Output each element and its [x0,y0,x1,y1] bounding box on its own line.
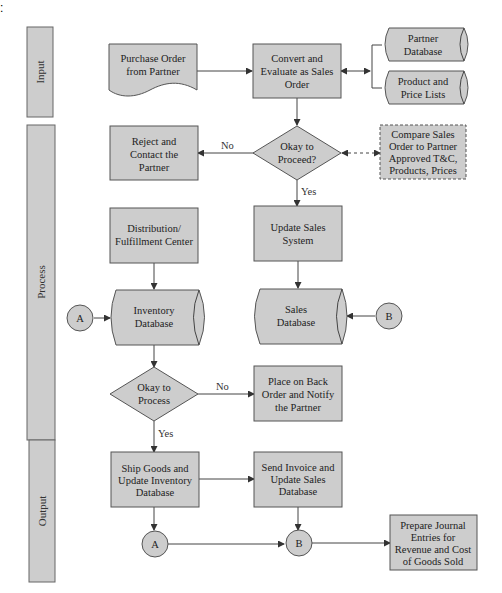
svg-text:Order: Order [285,79,310,90]
svg-text:Order and Notify: Order and Notify [262,389,335,400]
node-compare-sales-order: Compare Sales Order to Partner Approved … [380,125,466,179]
svg-text:Products, Prices: Products, Prices [389,165,457,176]
svg-text:Contact the: Contact the [130,149,178,160]
svg-text:Proceed?: Proceed? [278,154,317,165]
figure-marker: : [0,1,3,15]
svg-text:A: A [76,313,84,324]
svg-text:from Partner: from Partner [126,66,180,77]
lane-label-output: Output [36,496,48,527]
node-okay-to-process: Okay to Process [110,367,198,421]
node-journal-entries: Prepare Journal Entries for Revenue and … [390,515,477,570]
lane-input: Input [27,27,53,117]
node-purchase-order: Purchase Order from Partner [109,44,197,96]
edge-label-process-no: No [216,381,229,392]
svg-text:Product and: Product and [398,76,449,87]
svg-text:Database: Database [136,487,175,498]
node-product-price-lists: Product and Price Lists [385,71,468,104]
node-okay-to-proceed: Okay to Proceed? [253,126,341,180]
svg-text:Database: Database [404,46,443,57]
svg-text:Sales: Sales [285,304,307,315]
svg-text:Revenue and Cost: Revenue and Cost [395,544,471,555]
svg-text:Prepare Journal: Prepare Journal [400,520,466,531]
svg-text:Reject and: Reject and [132,136,177,147]
svg-text:Process: Process [138,395,170,406]
svg-text:A: A [151,539,159,550]
lane-label-process: Process [35,265,47,299]
connector-b-inbound: B [376,303,402,329]
svg-text:Update Sales: Update Sales [270,474,325,485]
lane-label-input: Input [34,60,46,83]
svg-text:Database: Database [279,486,318,497]
svg-text:Partner: Partner [139,162,170,173]
lane-process: Process [27,125,55,440]
node-back-order: Place on Back Order and Notify the Partn… [254,366,342,421]
node-reject-contact: Reject and Contact the Partner [110,126,198,180]
svg-text:Place on Back: Place on Back [268,376,329,387]
connector-a-inbound: A [67,305,93,331]
edge-label-process-yes: Yes [158,428,173,439]
svg-text:Okay to: Okay to [280,141,314,152]
svg-text:Entries for: Entries for [411,532,456,543]
edge-label-proceed-yes: Yes [301,186,316,197]
connector-a-outbound: A [142,531,168,557]
svg-text:Approved T&C,: Approved T&C, [389,153,458,164]
svg-text:Partner: Partner [408,33,439,44]
node-distribution-center: Distribution/ Fulfillment Center [110,208,198,263]
svg-text:Okay to: Okay to [137,382,171,393]
svg-text:System: System [283,235,314,246]
svg-text:Update Sales: Update Sales [270,222,325,233]
database-bracket [372,45,382,88]
node-convert-evaluate: Convert and Evaluate as Sales Order [253,44,341,98]
svg-text:Fulfillment Center: Fulfillment Center [115,236,193,247]
svg-text:Evaluate as Sales: Evaluate as Sales [261,66,334,77]
svg-text:Distribution/: Distribution/ [127,223,181,234]
svg-text:Database: Database [135,318,174,329]
lane-output: Output [29,440,55,582]
node-sales-database: Sales Database [255,289,348,344]
svg-text:Purchase Order: Purchase Order [120,53,186,64]
svg-text:B: B [385,311,392,322]
edge-label-proceed-no: No [221,140,234,151]
svg-text:Database: Database [277,317,316,328]
svg-text:Send Invoice and: Send Invoice and [262,462,336,473]
flowchart: : Input Process Output [0,0,502,593]
svg-text:the Partner: the Partner [275,402,321,413]
svg-text:Order to Partner: Order to Partner [389,141,458,152]
svg-text:Update Inventory: Update Inventory [118,475,193,486]
svg-text:Ship Goods and: Ship Goods and [121,463,189,474]
svg-text:B: B [295,538,302,549]
node-send-invoice: Send Invoice and Update Sales Database [254,452,342,507]
svg-text:of Goods Sold: of Goods Sold [403,556,464,567]
svg-text:Compare Sales: Compare Sales [391,129,454,140]
node-partner-database: Partner Database [385,28,468,61]
node-update-sales-system: Update Sales System [254,206,342,261]
svg-text:Price Lists: Price Lists [401,89,446,100]
svg-text:Inventory: Inventory [134,305,176,316]
node-inventory-database: Inventory Database [111,290,205,345]
svg-text:Convert and: Convert and [271,53,323,64]
connector-b-outbound: B [286,530,312,556]
node-ship-goods: Ship Goods and Update Inventory Database [111,452,199,507]
